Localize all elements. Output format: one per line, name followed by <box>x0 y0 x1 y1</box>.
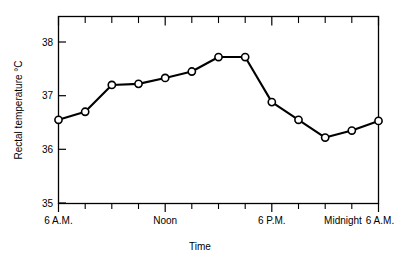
data-point <box>162 74 169 81</box>
x-tick-label-6am-end: 6 A.M. <box>366 215 394 226</box>
x-tick-label-6am-start: 6 A.M. <box>44 215 72 226</box>
x-axis-title-text: Time <box>189 241 211 252</box>
x-tick-label-midnight: Midnight <box>324 215 362 226</box>
data-point <box>215 53 222 60</box>
x-axis-tick-labels: 6 A.M. Noon 6 P.M. Midnight 6 A.M. <box>44 215 394 226</box>
plot-frame <box>59 17 379 204</box>
data-point <box>188 68 195 75</box>
data-point <box>322 134 329 141</box>
chart-container: 35 36 37 38 Rectal temperature °C <box>0 0 401 260</box>
x-tick-label-noon: Noon <box>153 215 177 226</box>
x-tick-label-6pm: 6 P.M. <box>258 215 286 226</box>
x-axis-ticks-bottom <box>59 203 379 212</box>
data-point <box>268 99 275 106</box>
data-point <box>295 116 302 123</box>
y-tick-label-38: 38 <box>42 37 54 48</box>
y-axis-title-text: Rectal temperature °C <box>13 60 24 159</box>
y-axis-tick-labels: 35 36 37 38 <box>42 37 54 209</box>
data-point <box>242 53 249 60</box>
series-line-rectal-temperature <box>59 57 379 138</box>
data-point <box>348 127 355 134</box>
y-tick-label-35: 35 <box>42 198 54 209</box>
data-point <box>375 117 382 124</box>
data-point <box>82 108 89 115</box>
temperature-line-chart: 35 36 37 38 Rectal temperature °C <box>0 0 401 260</box>
data-point <box>135 80 142 87</box>
x-axis-ticks-top <box>59 17 379 26</box>
series-markers <box>55 53 382 141</box>
data-point <box>55 116 62 123</box>
y-tick-label-37: 37 <box>42 90 54 101</box>
y-tick-label-36: 36 <box>42 144 54 155</box>
data-point <box>108 81 115 88</box>
y-axis-title: Rectal temperature °C <box>13 60 24 159</box>
